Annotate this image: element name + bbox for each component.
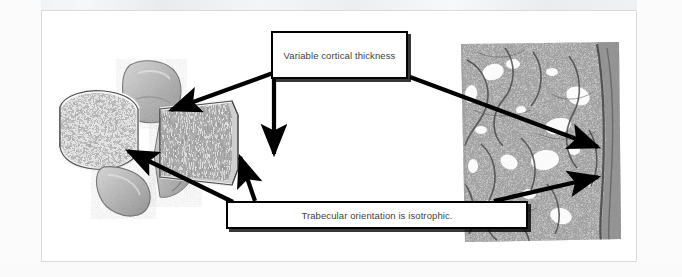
callout-variable-cortical-thickness[interactable]: Variable cortical thickness xyxy=(271,31,408,79)
page-left-margin xyxy=(0,0,41,277)
slide-canvas: Variable cortical thickness Trabecular o… xyxy=(41,10,637,262)
arrow-trabecular-to-vertebral-mid xyxy=(240,157,255,201)
page-right-margin xyxy=(637,0,682,277)
page-top-margin xyxy=(0,0,682,10)
vertebra-sagittal-section xyxy=(42,59,242,219)
callout-trabecular-orientation[interactable]: Trabecular orientation is isotrophic. xyxy=(226,201,528,229)
vertebra-inferior-process xyxy=(97,167,151,216)
callout-bottom-text: Trabecular orientation is isotrophic. xyxy=(301,210,452,221)
page-bottom-margin xyxy=(0,262,682,277)
vertebral-column-block xyxy=(154,97,242,189)
callout-top-text: Variable cortical thickness xyxy=(284,50,396,61)
